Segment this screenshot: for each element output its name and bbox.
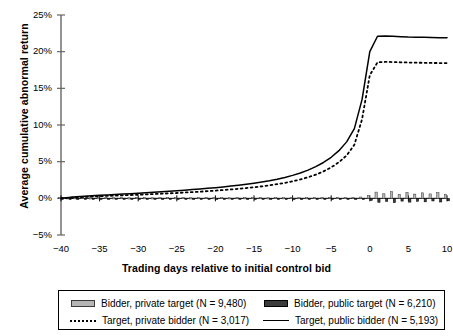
bar [429, 194, 431, 198]
bar [136, 198, 138, 199]
bar [190, 198, 192, 199]
bar [123, 198, 125, 199]
bar [251, 197, 253, 198]
bar [113, 198, 115, 199]
bar [355, 198, 357, 199]
bar [138, 198, 140, 199]
bar [336, 198, 338, 199]
bar [437, 193, 439, 199]
bar [308, 198, 310, 199]
bar [421, 193, 423, 199]
bar [406, 192, 408, 198]
bar [378, 198, 380, 202]
legend-label: Target, public bidder (N = 5,193) [295, 315, 438, 326]
bar [390, 192, 392, 199]
bar [216, 198, 218, 199]
legend-swatch-line-solid [263, 320, 289, 321]
chart-legend: Bidder, private target (N = 9,480) Bidde… [58, 290, 445, 330]
bar [316, 198, 318, 199]
bar [177, 198, 179, 199]
bar [128, 198, 130, 199]
legend-item-bidder-private-target: Bidder, private target (N = 9,480) [71, 295, 246, 312]
bar [270, 198, 272, 199]
legend-item-bidder-public-target: Bidder, public target (N = 6,210) [264, 295, 435, 312]
bar [231, 198, 233, 199]
bar [154, 198, 156, 199]
bar [115, 198, 117, 199]
bar [362, 198, 364, 199]
bar [100, 198, 102, 199]
bar [275, 198, 277, 199]
line-target-private-bidder [61, 62, 447, 199]
bar [352, 197, 354, 198]
bar [401, 198, 403, 201]
bar [120, 198, 122, 199]
bar [344, 197, 346, 198]
chart-figure: Average cumulative abnormal return Tradi… [0, 0, 453, 336]
bar [298, 198, 300, 199]
bar [169, 198, 171, 199]
bar [386, 198, 388, 201]
bar [370, 198, 372, 200]
bar [131, 198, 133, 199]
bar [159, 197, 161, 198]
bar [228, 198, 230, 199]
bar [200, 198, 202, 199]
bar [440, 198, 442, 202]
bar [432, 198, 434, 201]
bar [383, 194, 385, 199]
bar [262, 198, 264, 199]
bar [162, 198, 164, 199]
bar [360, 197, 362, 198]
bar [331, 198, 333, 199]
bar [306, 198, 308, 199]
bar [197, 198, 199, 199]
legend-item-target-public-bidder: Target, public bidder (N = 5,193) [263, 312, 438, 329]
bar [92, 198, 94, 199]
bar [285, 198, 287, 199]
legend-swatch-line-dotted [70, 320, 96, 322]
bar [444, 195, 446, 199]
bar [84, 198, 86, 199]
bar [290, 197, 292, 198]
bar [108, 198, 110, 199]
bar [146, 198, 148, 199]
bar [301, 198, 303, 199]
legend-item-target-private-bidder: Target, private bidder (N = 3,017) [70, 312, 249, 329]
bar [97, 198, 99, 199]
bar [267, 198, 269, 199]
bar [151, 198, 153, 199]
bar [375, 192, 377, 198]
legend-label: Bidder, public target (N = 6,210) [294, 298, 435, 309]
bar [221, 198, 223, 199]
bar [208, 198, 210, 199]
bar [193, 198, 195, 199]
bar [398, 194, 400, 198]
bar [313, 198, 315, 199]
bar [347, 198, 349, 199]
bar [244, 198, 246, 199]
bar [105, 197, 107, 198]
bar [247, 198, 249, 199]
bar [213, 198, 215, 199]
bar [277, 198, 279, 199]
bar [223, 198, 225, 199]
legend-label: Target, private bidder (N = 3,017) [102, 315, 249, 326]
bar [239, 198, 241, 199]
bar [182, 198, 184, 199]
bar [324, 198, 326, 199]
bar [293, 198, 295, 199]
bar [424, 198, 426, 202]
plot-canvas [0, 0, 453, 336]
bar [447, 198, 449, 200]
bar [259, 198, 261, 199]
bar [393, 198, 395, 202]
bar [282, 198, 284, 199]
bar [143, 198, 145, 199]
bar [409, 198, 411, 202]
legend-swatch-bar-light [71, 300, 95, 307]
bar [321, 198, 323, 199]
bar [185, 198, 187, 199]
legend-label: Bidder, private target (N = 9,480) [101, 298, 246, 309]
line-target-public-bidder [61, 36, 447, 198]
